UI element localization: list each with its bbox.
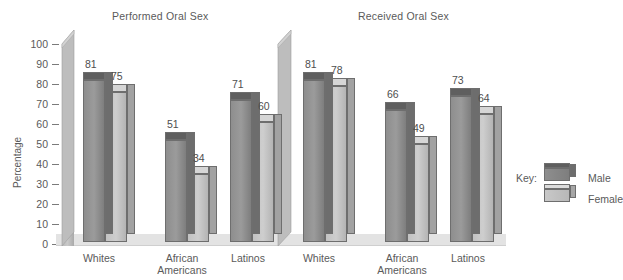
bar-left-latinos-male <box>230 100 252 242</box>
cat-label-line1: Whites <box>83 252 115 264</box>
bar-right-latinos-male <box>450 96 472 242</box>
bar-value-right-latinos-female: 64 <box>478 92 490 104</box>
cat-label-left-latinos: Latinos <box>212 252 284 264</box>
bar-value-right-whites-male: 81 <box>305 58 317 70</box>
y-tick-mark-80 <box>52 84 59 85</box>
panel-title-received: Received Oral Sex <box>358 10 449 22</box>
y-tick-mark-10 <box>52 224 59 225</box>
cat-label-right-african-americans: African Americans <box>366 252 438 276</box>
cat-label-line2: Americans <box>146 264 218 276</box>
y-tick-20: 20 <box>26 198 48 210</box>
y-tick-mark-60 <box>52 124 59 125</box>
bar-left-whites-male <box>83 80 105 242</box>
bar-value-right-african-americans-male: 66 <box>387 88 399 100</box>
axis-wall-left <box>60 30 76 246</box>
y-tick-mark-70 <box>52 104 59 105</box>
y-tick-mark-90 <box>52 64 59 65</box>
y-tick-0: 0 <box>26 238 48 250</box>
bar-value-right-latinos-male: 73 <box>452 74 464 86</box>
legend: Key: Male Female <box>516 158 620 210</box>
cat-label-line1: Latinos <box>451 252 485 264</box>
cat-label-line1: Whites <box>303 252 335 264</box>
y-tick-40: 40 <box>26 158 48 170</box>
y-tick-80: 80 <box>26 78 48 90</box>
bar-value-left-whites-female: 75 <box>111 70 123 82</box>
bar-value-left-african-americans-male: 51 <box>167 118 179 130</box>
bar-value-left-latinos-male: 71 <box>232 78 244 90</box>
y-tick-mark-40 <box>52 164 59 165</box>
cat-label-line1: African <box>166 252 199 264</box>
legend-label-male: Male <box>588 172 611 184</box>
legend-key-label: Key: <box>516 172 537 184</box>
legend-swatch-male <box>544 163 570 176</box>
cat-label-line1: African <box>386 252 419 264</box>
panel-title-performed: Performed Oral Sex <box>112 10 208 22</box>
bar-right-whites-male <box>303 80 325 242</box>
y-tick-30: 30 <box>26 178 48 190</box>
cat-label-right-whites: Whites <box>284 252 354 264</box>
bar-value-right-whites-female: 78 <box>331 64 343 76</box>
bar-left-african-americans-male <box>165 140 187 242</box>
y-tick-mark-50 <box>52 144 59 145</box>
y-tick-10: 10 <box>26 218 48 230</box>
y-tick-90: 90 <box>26 58 48 70</box>
y-axis-label: Percentage <box>12 137 23 188</box>
bar-value-right-african-americans-female: 49 <box>413 122 425 134</box>
bar-value-left-african-americans-female: 34 <box>193 152 205 164</box>
y-tick-60: 60 <box>26 118 48 130</box>
y-tick-70: 70 <box>26 98 48 110</box>
y-tick-mark-100 <box>52 44 59 45</box>
y-tick-mark-20 <box>52 204 59 205</box>
bar-right-african-americans-male <box>385 110 407 242</box>
legend-swatch-female <box>544 184 570 197</box>
cat-label-left-african-americans: African Americans <box>146 252 218 276</box>
y-tick-mark-30 <box>52 184 59 185</box>
y-tick-100: 100 <box>26 38 48 50</box>
bar-value-left-latinos-female: 60 <box>258 100 270 112</box>
y-tick-50: 50 <box>26 138 48 150</box>
bar-value-left-whites-male: 81 <box>85 58 97 70</box>
cat-label-line2: Americans <box>366 264 438 276</box>
cat-label-right-latinos: Latinos <box>432 252 504 264</box>
cat-label-line1: Latinos <box>231 252 265 264</box>
cat-label-left-whites: Whites <box>64 252 134 264</box>
legend-label-female: Female <box>588 193 623 205</box>
